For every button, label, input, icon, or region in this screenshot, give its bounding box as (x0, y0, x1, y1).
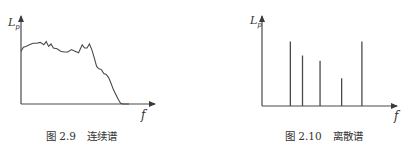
y-axis-label: Lp (249, 14, 262, 29)
discrete-spectrum-chart: Lp f 图 2.10 离散谱 (249, 14, 401, 142)
spectrum-line (21, 42, 129, 104)
x-axis-label: f (140, 108, 148, 122)
figure: Lp f 图 2.9 连续谱 Lp f 图 2.10 离散谱 (0, 0, 412, 148)
y-axis-label-sub: p (15, 23, 20, 31)
caption-number: 图 2.9 (46, 130, 76, 142)
x-axis-label: f (393, 109, 401, 123)
y-axis-label: Lp (7, 16, 20, 31)
caption-text: 连续谱 (87, 130, 118, 142)
y-axis-label-sub: p (257, 21, 262, 29)
caption-number: 图 2.10 (285, 130, 322, 142)
caption-text: 离散谱 (333, 130, 364, 142)
continuous-spectrum-chart: Lp f 图 2.9 连续谱 (7, 16, 155, 142)
